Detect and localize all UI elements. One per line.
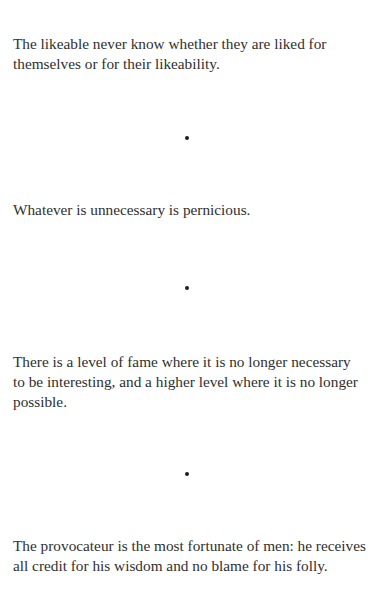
quote-line: There is a level of fame where it is no …	[13, 352, 365, 372]
bullet-dot-icon	[185, 136, 189, 140]
bullet-dot-icon	[185, 472, 189, 476]
quote-3: There is a level of fame where it is no …	[13, 352, 365, 412]
quote-line: possible.	[13, 392, 365, 412]
quote-line: to be interesting, and a higher level wh…	[13, 372, 365, 392]
quote-line: themselves or for their likeability.	[13, 54, 365, 74]
bullet-dot-icon	[185, 286, 189, 290]
quote-line: all credit for his wisdom and no blame f…	[13, 556, 365, 576]
quote-4: The provocateur is the most fortunate of…	[13, 536, 365, 576]
quote-line: Whatever is unnecessary is pernicious.	[13, 200, 365, 220]
running-head: Nothing	[312, 0, 362, 2]
quote-2: Whatever is unnecessary is pernicious.	[13, 200, 365, 220]
quote-1: The likeable never know whether they are…	[13, 34, 365, 74]
quote-line: The likeable never know whether they are…	[13, 34, 365, 54]
quote-line: The provocateur is the most fortunate of…	[13, 536, 365, 556]
